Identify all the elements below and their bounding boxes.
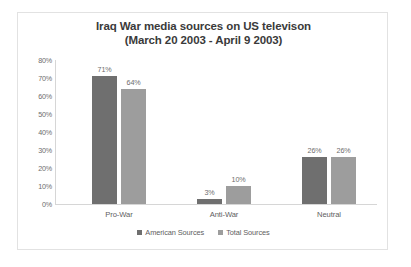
bar-value-label: 26% [337,146,351,155]
bar-anti-war-american-sources[interactable]: 3% [197,199,222,204]
bar-pro-war-total-sources[interactable]: 64% [121,89,146,204]
plot-area: 80% 70% 60% 50% 40% 30% 20% 10% 0% 71% 6… [55,60,377,205]
bar-group-anti-war: 3% 10% Anti-War [197,60,251,204]
y-axis-tick-10: 10% [38,182,52,191]
bar-group-pro-war: 71% 64% Pro-War [92,60,146,204]
y-axis-tick-0: 0% [42,200,52,209]
y-axis-tick-70: 70% [38,74,52,83]
bar-value-label: 26% [308,146,322,155]
legend-item-american-sources[interactable]: American Sources [137,228,204,237]
y-axis-tick-60: 60% [38,92,52,101]
chart-title: Iraq War media sources on US televison (… [18,19,389,47]
y-axis-tick-30: 30% [38,146,52,155]
bar-value-label: 10% [232,175,246,184]
legend-label: Total Sources [226,228,269,237]
chart-title-line-2: (March 20 2003 - April 9 2003) [18,33,389,47]
chart-container: Iraq War media sources on US televison (… [17,12,388,250]
chart-title-line-1: Iraq War media sources on US televison [18,19,389,33]
bar-value-label: 71% [98,65,112,74]
bar-pro-war-american-sources[interactable]: 71% [92,76,117,204]
x-axis-label-pro-war: Pro-War [105,210,132,219]
y-axis-tick-80: 80% [38,56,52,65]
bar-anti-war-total-sources[interactable]: 10% [226,186,251,204]
legend-item-total-sources[interactable]: Total Sources [218,228,269,237]
bar-neutral-total-sources[interactable]: 26% [331,157,356,204]
legend-swatch-icon [137,230,142,235]
bar-neutral-american-sources[interactable]: 26% [302,157,327,204]
bar-group-neutral: 26% 26% Neutral [302,60,356,204]
legend-label: American Sources [145,228,204,237]
y-axis-tick-50: 50% [38,110,52,119]
chart-legend: American Sources Total Sources [18,228,389,237]
legend-swatch-icon [218,230,223,235]
bar-value-label: 64% [127,78,141,87]
y-axis-tick-40: 40% [38,128,52,137]
x-axis-label-anti-war: Anti-War [210,210,238,219]
bar-value-label: 3% [205,188,215,197]
y-axis-tick-20: 20% [38,164,52,173]
x-axis-label-neutral: Neutral [317,210,341,219]
